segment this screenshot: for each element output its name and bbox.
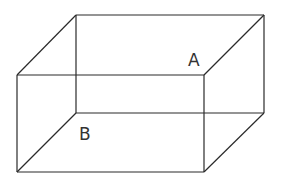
edge-bottom-right-depth bbox=[204, 113, 264, 172]
cuboid-diagram: A B bbox=[0, 0, 285, 187]
edge-bottom-left-depth bbox=[17, 113, 76, 172]
edge-top-left-depth bbox=[17, 15, 76, 75]
edge-top-right-depth bbox=[204, 15, 264, 75]
label-b: B bbox=[79, 124, 91, 144]
label-a: A bbox=[188, 50, 200, 70]
